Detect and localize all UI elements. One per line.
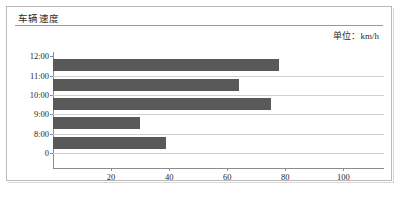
gridline xyxy=(53,95,384,96)
y-axis-tick-label: 0 xyxy=(45,148,49,158)
y-axis-tick-label: 11:00 xyxy=(30,71,49,81)
bar xyxy=(53,137,166,149)
y-axis-tick-label: 9:00 xyxy=(34,109,49,119)
x-axis-line xyxy=(53,168,384,169)
gridline xyxy=(53,76,384,77)
title-divider xyxy=(15,25,383,26)
x-axis-tick-mark xyxy=(111,168,112,171)
x-axis-tick-mark xyxy=(285,168,286,171)
plot-area: 12:0011:0010:009:008:000 xyxy=(53,52,317,168)
x-axis-tick-label: 40 xyxy=(165,172,174,182)
y-axis-tick-mark xyxy=(50,76,53,77)
x-axis-tick-mark xyxy=(169,168,170,171)
gridline xyxy=(53,114,384,115)
y-axis-tick-mark xyxy=(50,95,53,96)
y-axis-tick-label: 10:00 xyxy=(30,90,49,100)
y-axis-tick-mark xyxy=(50,153,53,154)
y-axis-tick-mark xyxy=(50,134,53,135)
bar xyxy=(53,79,239,91)
bar xyxy=(53,59,279,71)
y-axis-tick-mark xyxy=(50,114,53,115)
x-axis-tick-label: 20 xyxy=(107,172,116,182)
unit-label: 单位：km/h xyxy=(333,29,379,42)
y-axis-tick-label: 12:00 xyxy=(30,51,49,61)
chart-panel: 车辆速度 单位：km/h 12:0011:0010:009:008:000 20… xyxy=(6,6,392,181)
x-axis-tick-mark xyxy=(343,168,344,171)
x-axis-tick-label: 80 xyxy=(281,172,290,182)
gridline xyxy=(53,134,384,135)
bar xyxy=(53,117,140,129)
x-axis-tick-label: 100 xyxy=(337,172,350,182)
y-axis-tick-label: 8:00 xyxy=(34,129,49,139)
x-axis-tick-mark xyxy=(227,168,228,171)
page-title: 车辆速度 xyxy=(18,11,59,25)
gridline xyxy=(53,153,384,154)
y-axis-tick-mark xyxy=(50,56,53,57)
bar xyxy=(53,98,271,110)
x-axis-tick-label: 60 xyxy=(223,172,232,182)
